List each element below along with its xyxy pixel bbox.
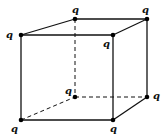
- cube-diagram: qqqqqqqq: [0, 0, 165, 135]
- charge-label-back-bottom-left: q: [65, 86, 72, 96]
- charge-dot-back-bottom-left: [73, 95, 78, 100]
- charge-label-front-bottom-right: q: [110, 124, 117, 134]
- charge-dot-front-bottom-left: [19, 118, 24, 123]
- charge-label-front-top-right: q: [103, 39, 110, 49]
- edge-top-left-depth: [21, 19, 75, 35]
- edge-bottom-right-depth: [113, 97, 147, 120]
- charge-dot-front-bottom-right: [111, 118, 116, 123]
- charge-dot-front-top-right: [111, 33, 116, 38]
- charge-dot-front-top-left: [19, 33, 24, 38]
- charge-label-back-bottom-right: q: [153, 91, 160, 101]
- charge-label-front-bottom-left: q: [11, 124, 18, 134]
- charge-label-back-top-right: q: [142, 5, 149, 15]
- hidden-edge-bottom-left-depth: [21, 97, 75, 120]
- charge-label-front-top-left: q: [6, 30, 13, 40]
- charge-dot-back-bottom-right: [145, 95, 150, 100]
- edge-top-right-depth: [113, 19, 147, 35]
- cube-drawing: [0, 0, 165, 135]
- charge-dot-back-top-right: [145, 17, 150, 22]
- charge-dot-back-top-left: [73, 17, 78, 22]
- charge-label-back-top-left: q: [72, 5, 79, 15]
